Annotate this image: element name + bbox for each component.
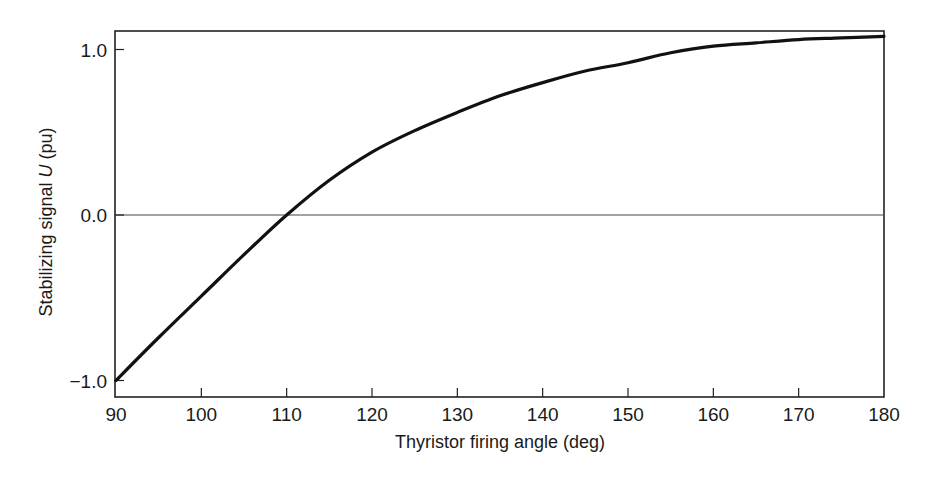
- x-tick-label: 120: [356, 404, 388, 425]
- x-tick-label: 150: [612, 404, 644, 425]
- x-tick-label: 180: [868, 404, 900, 425]
- x-axis-title: Thyristor firing angle (deg): [395, 432, 605, 452]
- y-tick-label: 0.0: [81, 205, 107, 226]
- plot-frame: [115, 31, 884, 397]
- y-axis-ticks: −1.00.01.0: [69, 40, 124, 392]
- x-tick-label: 140: [527, 404, 559, 425]
- y-axis-title-prefix: Stabilizing signal: [36, 177, 56, 316]
- y-tick-label: −1.0: [69, 371, 107, 392]
- x-tick-label: 90: [105, 404, 126, 425]
- y-tick-label: 1.0: [81, 40, 107, 61]
- plot-border: [115, 31, 884, 397]
- y-axis-title-variable: U: [36, 163, 56, 177]
- x-tick-label: 130: [441, 404, 473, 425]
- x-tick-label: 100: [185, 404, 217, 425]
- y-axis-title-suffix: (pu): [36, 127, 56, 164]
- x-axis-ticks: 90100110120130140150160170180: [105, 388, 899, 425]
- x-tick-label: 170: [783, 404, 815, 425]
- x-tick-label: 110: [272, 404, 302, 425]
- x-tick-label: 160: [697, 404, 729, 425]
- series-line-u: [116, 36, 884, 380]
- y-axis-title: Stabilizing signal U (pu): [36, 127, 56, 316]
- data-series: [116, 36, 884, 380]
- chart: 90100110120130140150160170180 −1.00.01.0…: [0, 0, 938, 479]
